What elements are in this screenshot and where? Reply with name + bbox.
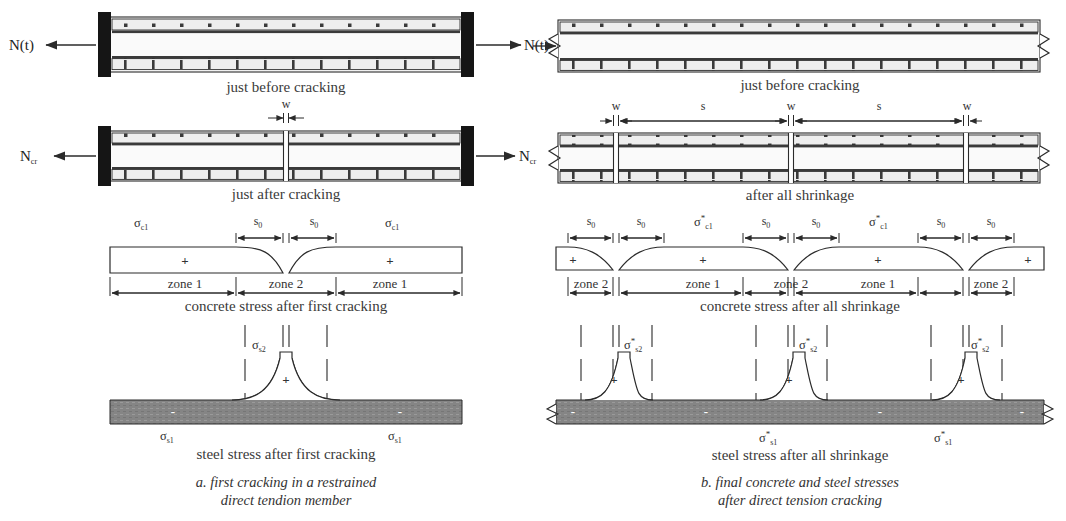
bottom-reinforcement-a1 [112, 59, 460, 70]
crack-gap-b-1 [614, 133, 619, 183]
fixed-support-left-a1 [98, 12, 111, 77]
top-reinforcement-b1 [560, 22, 1038, 32]
steel-stress-caption-b: steel stress after all shrinkage [712, 447, 889, 463]
zone-label-b-5: zone 2 [974, 276, 1008, 291]
top-reinforcement-a1 [112, 19, 460, 30]
minus-sign-steel-a-1: - [171, 404, 175, 419]
minus-sign-steel-b-4: - [1020, 404, 1024, 419]
minus-sign-steel-b-2: - [704, 404, 708, 419]
crack-gap-b-3 [964, 133, 969, 183]
stage-label-a2: just after cracking [231, 186, 341, 202]
minus-sign-steel-b-1: - [571, 404, 575, 419]
concrete-stress-block-right-a [289, 247, 462, 273]
zone-label-b-2: zone 1 [686, 276, 720, 291]
zone-label-a-2: zone 2 [269, 276, 303, 291]
fixed-support-right-a2 [461, 126, 474, 186]
crack-gap-a2 [284, 131, 289, 181]
plus-sign-steel-b-3: + [957, 372, 964, 387]
plus-sign-b-4: + [1024, 252, 1031, 267]
engineering-diagram: N(t) N(t) just before cracking w [0, 0, 1066, 521]
plus-sign-b-2: + [699, 252, 706, 267]
fixed-support-right-a1 [461, 12, 474, 77]
dim-label-b-w1: w [612, 99, 621, 113]
minus-sign-steel-a-2: - [398, 404, 402, 419]
plus-sign-a-2: + [386, 253, 393, 268]
stage-label-b2: after all shrinkage [746, 187, 855, 203]
plus-sign-steel-b-1: + [610, 372, 617, 387]
top-bar-line-a1 [112, 31, 460, 34]
zone-label-b-3: zone 2 [774, 276, 808, 291]
figure-root: N(t) N(t) just before cracking w [0, 0, 1066, 521]
dim-label-b-s2: s [877, 99, 882, 113]
plus-sign-steel-b-2: + [785, 372, 792, 387]
figure-caption-a-line2: direct tendion member [221, 492, 352, 508]
stage-label-a1: just before cracking [225, 79, 346, 95]
dim-label-b-w3: w [963, 99, 972, 113]
plus-sign-b-3: + [874, 252, 881, 267]
dim-label-b-w2: w [787, 99, 796, 113]
zone-label-a-1: zone 1 [168, 276, 202, 291]
concrete-stress-caption-b: concrete stress after all shrinkage [700, 298, 900, 314]
figure-caption-a-line1: a. first cracking in a restrained [196, 474, 377, 490]
steel-stress-caption-a: steel stress after first cracking [196, 446, 376, 462]
zone-label-b-4: zone 1 [861, 276, 895, 291]
plus-sign-a-1: + [181, 253, 188, 268]
stage-label-b1: just before cracking [739, 77, 860, 93]
figure-caption-b-line1: b. final concrete and steel stresses [701, 474, 899, 490]
plus-sign-steel-a: + [282, 372, 289, 387]
crack-width-label-a2: w [282, 97, 291, 111]
bottom-reinforcement-b1 [560, 60, 1038, 70]
minus-sign-steel-b-3: - [878, 404, 882, 419]
figure-caption-b-line2: after direct tension cracking [718, 492, 882, 508]
dim-label-b-s1: s [701, 99, 706, 113]
force-label-left-a1: N(t) [9, 37, 34, 54]
plus-sign-b-1: + [569, 252, 576, 267]
top-bar-line-b1 [560, 32, 1038, 34]
concrete-stress-caption-a: concrete stress after first cracking [185, 298, 388, 314]
zone-label-b-1: zone 2 [574, 276, 608, 291]
fixed-support-left-a2 [98, 126, 111, 186]
crack-gap-b-2 [789, 133, 794, 183]
zone-label-a-3: zone 1 [373, 276, 407, 291]
concrete-stress-block-left-a [110, 247, 283, 273]
